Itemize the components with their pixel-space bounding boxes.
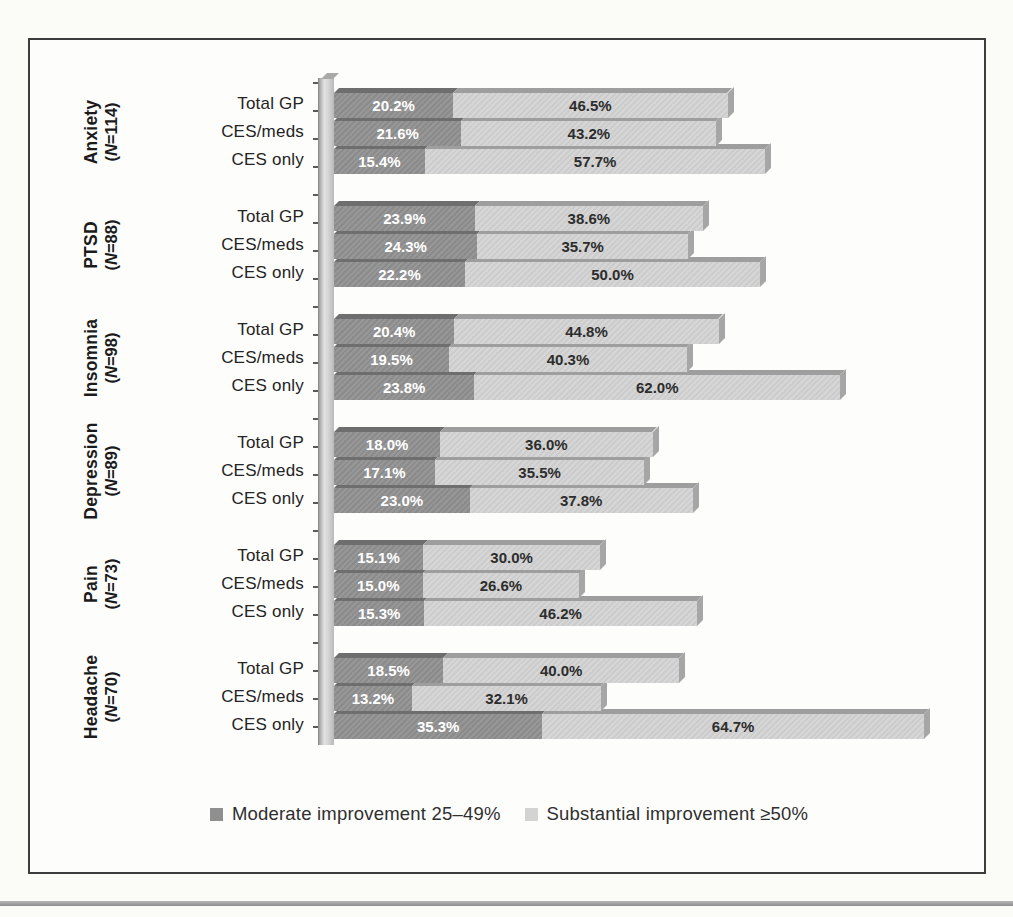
bar-top-face bbox=[334, 88, 458, 93]
bar-rows: Total GP18.5%40.0%CES/meds13.2%32.1%CES … bbox=[160, 655, 976, 739]
treatment-label: CES/meds bbox=[160, 687, 318, 707]
condition-label-text: Pain(N=73) bbox=[82, 559, 120, 610]
condition-label: Pain(N=73) bbox=[42, 542, 160, 626]
bar-row: Total GP18.5%40.0% bbox=[160, 655, 976, 683]
bar-track: 20.2%46.5% bbox=[318, 90, 976, 118]
legend: Moderate improvement 25–49% Substantial … bbox=[42, 803, 976, 825]
condition-label-text: Insomnia(N=98) bbox=[82, 319, 120, 397]
bar-top-face bbox=[440, 427, 657, 432]
figure-border: Anxiety(N=114)Total GP20.2%46.5%CES/meds… bbox=[28, 38, 986, 874]
bar-row: CES only23.0%37.8% bbox=[160, 485, 976, 513]
condition-name: PTSD bbox=[82, 221, 102, 268]
bar-track: 15.1%30.0% bbox=[318, 542, 976, 570]
chart: Anxiety(N=114)Total GP20.2%46.5%CES/meds… bbox=[42, 90, 976, 825]
bar-rows: Total GP15.1%30.0%CES/meds15.0%26.6%CES … bbox=[160, 542, 976, 626]
bar-end-face bbox=[693, 482, 699, 513]
treatment-label: CES only bbox=[160, 602, 318, 622]
bar-value-label: 44.8% bbox=[565, 323, 608, 340]
bar-segment-moderate: 21.6% bbox=[334, 121, 461, 146]
bar-segment-moderate: 18.5% bbox=[334, 658, 443, 683]
bar-value-label: 46.5% bbox=[569, 97, 612, 114]
bar-value-label: 23.9% bbox=[383, 210, 426, 227]
bar-row: Total GP20.4%44.8% bbox=[160, 316, 976, 344]
bar-value-label: 30.0% bbox=[490, 549, 533, 566]
bar-top-face bbox=[453, 88, 732, 93]
legend-item-substantial: Substantial improvement ≥50% bbox=[525, 803, 809, 825]
bar-top-face bbox=[334, 653, 448, 658]
bar-end-face bbox=[653, 426, 659, 457]
bar-end-face bbox=[687, 341, 693, 372]
bar-track: 22.2%50.0% bbox=[318, 259, 976, 287]
bar-value-label: 23.0% bbox=[381, 492, 424, 509]
bar-rows: Total GP20.4%44.8%CES/meds19.5%40.3%CES … bbox=[160, 316, 976, 400]
bar-row: CES/meds15.0%26.6% bbox=[160, 570, 976, 598]
bar-value-label: 17.1% bbox=[363, 464, 406, 481]
bar-segment-moderate: 20.2% bbox=[334, 93, 453, 118]
bar-segment-moderate: 20.4% bbox=[334, 319, 454, 344]
bar-value-label: 24.3% bbox=[384, 238, 427, 255]
treatment-label: CES only bbox=[160, 150, 318, 170]
bar-segment-substantial: 38.6% bbox=[475, 206, 703, 231]
bar-end-face bbox=[760, 256, 766, 287]
bar-track: 23.8%62.0% bbox=[318, 372, 976, 400]
bar-end-face bbox=[765, 143, 771, 174]
condition-sample-size: (N=88) bbox=[102, 220, 120, 271]
bar-rows: Total GP20.2%46.5%CES/meds21.6%43.2%CES … bbox=[160, 90, 976, 174]
bar-segment-substantial: 32.1% bbox=[412, 686, 601, 711]
bar-end-face bbox=[600, 539, 606, 570]
bar-segment-substantial: 50.0% bbox=[465, 262, 760, 287]
bar-track: 19.5%40.3% bbox=[318, 344, 976, 372]
bar-top-face bbox=[334, 201, 480, 206]
bar-top-face bbox=[334, 540, 428, 545]
bar-value-label: 20.2% bbox=[372, 97, 415, 114]
bar-segment-moderate: 23.9% bbox=[334, 206, 475, 231]
condition-label: PTSD(N=88) bbox=[42, 203, 160, 287]
bar-value-label: 38.6% bbox=[568, 210, 611, 227]
bar-value-label: 26.6% bbox=[480, 577, 523, 594]
bar-segment-substantial: 44.8% bbox=[454, 319, 718, 344]
bar-row: Total GP18.0%36.0% bbox=[160, 429, 976, 457]
legend-swatch-moderate-icon bbox=[210, 808, 223, 821]
bar-row: Total GP15.1%30.0% bbox=[160, 542, 976, 570]
condition-group: Insomnia(N=98)Total GP20.4%44.8%CES/meds… bbox=[42, 316, 976, 400]
condition-label: Depression(N=89) bbox=[42, 429, 160, 513]
bar-value-label: 35.7% bbox=[561, 238, 604, 255]
condition-group: Pain(N=73)Total GP15.1%30.0%CES/meds15.0… bbox=[42, 542, 976, 626]
bar-end-face bbox=[924, 708, 930, 739]
bar-value-label: 20.4% bbox=[373, 323, 416, 340]
bar-segment-substantial: 46.2% bbox=[424, 601, 697, 626]
bar-end-face bbox=[688, 228, 694, 259]
bar-row: CES only22.2%50.0% bbox=[160, 259, 976, 287]
treatment-label: CES/meds bbox=[160, 348, 318, 368]
bar-track: 18.5%40.0% bbox=[318, 655, 976, 683]
condition-label-text: Headache(N=70) bbox=[82, 655, 120, 739]
treatment-label: CES/meds bbox=[160, 461, 318, 481]
bar-track: 21.6%43.2% bbox=[318, 118, 976, 146]
bar-segment-moderate: 24.3% bbox=[334, 234, 477, 259]
bar-segment-substantial: 57.7% bbox=[425, 149, 765, 174]
bar-row: CES/meds24.3%35.7% bbox=[160, 231, 976, 259]
condition-group: Depression(N=89)Total GP18.0%36.0%CES/me… bbox=[42, 429, 976, 513]
bar-end-face bbox=[716, 115, 722, 146]
bar-track: 24.3%35.7% bbox=[318, 231, 976, 259]
bar-segment-moderate: 15.3% bbox=[334, 601, 424, 626]
treatment-label: Total GP bbox=[160, 94, 318, 114]
bar-track: 13.2%32.1% bbox=[318, 683, 976, 711]
bar-end-face bbox=[579, 567, 585, 598]
treatment-label: Total GP bbox=[160, 546, 318, 566]
condition-name: Depression bbox=[82, 422, 102, 519]
page-divider-rule bbox=[0, 901, 1013, 906]
bar-value-label: 15.4% bbox=[358, 153, 401, 170]
condition-label-text: Depression(N=89) bbox=[82, 422, 120, 519]
treatment-label: CES/meds bbox=[160, 235, 318, 255]
condition-label-text: Anxiety(N=114) bbox=[82, 100, 120, 165]
treatment-label: Total GP bbox=[160, 433, 318, 453]
condition-label: Anxiety(N=114) bbox=[42, 90, 160, 174]
bar-row: CES/meds13.2%32.1% bbox=[160, 683, 976, 711]
bar-track: 23.9%38.6% bbox=[318, 203, 976, 231]
bar-value-label: 13.2% bbox=[352, 690, 395, 707]
bar-segment-substantial: 35.5% bbox=[435, 460, 645, 485]
bar-segment-substantial: 62.0% bbox=[474, 375, 840, 400]
bar-value-label: 18.5% bbox=[367, 662, 410, 679]
bar-segment-moderate: 18.0% bbox=[334, 432, 440, 457]
